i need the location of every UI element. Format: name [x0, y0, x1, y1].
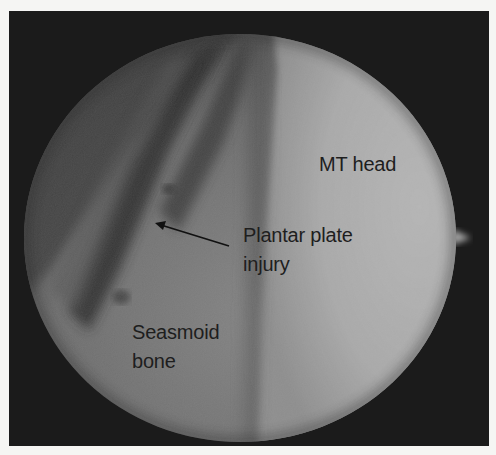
plantar-plate-line2: injury [243, 250, 353, 279]
arthroscopic-figure: MT head Plantar plate injury Seasmoid bo… [9, 11, 489, 446]
sesamoid-line2: bone [132, 347, 219, 376]
sesamoid-line1: Seasmoid [132, 318, 219, 347]
plantar-plate-label: Plantar plate injury [243, 221, 353, 279]
sesamoid-bone-label: Seasmoid bone [132, 318, 219, 376]
mt-head-text: MT head [319, 153, 396, 175]
plantar-plate-line1: Plantar plate [243, 221, 353, 250]
mt-head-label: MT head [319, 153, 396, 175]
